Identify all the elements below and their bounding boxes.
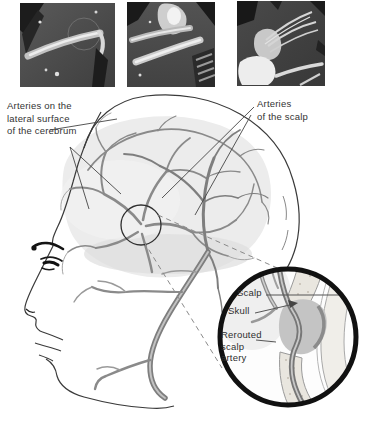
label-cerebrum-arteries: Arteries on the lateral surface of the c… [7,100,101,138]
surgical-photo-3 [237,1,325,86]
label-inset-skull: Skull [228,305,250,317]
hair-strokes [282,196,288,250]
label-inset-scalp: Scalp [237,287,262,299]
anatomy-figure: Arteries on the lateral surface of the c… [0,0,372,421]
label-scalp-arteries: Arteries of the scalp [257,97,327,123]
surgical-photo-2 [127,2,215,87]
surgical-photo-1 [20,3,115,87]
eye-brow-marks [31,243,63,270]
nostril-line [26,309,35,312]
lips-lines [35,331,63,361]
illustration-svg [0,0,372,421]
label-inset-rerouted-artery: Rerouted scalp artery [221,329,271,364]
